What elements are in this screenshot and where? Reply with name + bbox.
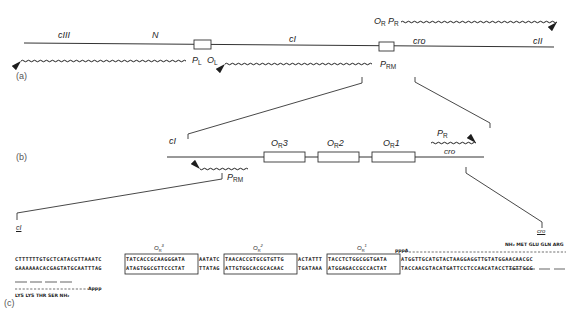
- top-strand-or2: TAACACCGTGCGTGTTG: [225, 257, 284, 262]
- b-promoter-pr: PR: [437, 129, 448, 140]
- operator-right-box: [379, 42, 394, 51]
- bottom-strand-seg-end: TACCAACGTACATGATTCCTCCAACATACCTTGTTGCG: [401, 266, 533, 271]
- prm-transcript: [225, 63, 372, 65]
- gene-cro: cro: [413, 37, 426, 46]
- gene-cii: cII: [533, 37, 543, 46]
- b-or3-label: OR3: [271, 139, 288, 150]
- bottom-strand-spacer-2: TGATAAA: [298, 266, 322, 271]
- c-or3-label: OR3: [154, 244, 164, 253]
- top-strand-seg-1: CTTTTTTGTGCTCATACGTTAAATC: [15, 257, 102, 262]
- bottom-strand-seg-1: GAAAAAACACGAGTATGCAATTTAG: [15, 266, 102, 271]
- b-or2-label: OR2: [327, 139, 344, 150]
- pl-transcript: [21, 60, 186, 62]
- bottom-strand-or2: ATTGTGGCACGCACAAC: [225, 266, 284, 271]
- c-gene-cro: cro: [537, 228, 545, 234]
- c-pppa-label: pppA: [395, 249, 408, 254]
- b-pr-transcript: [431, 142, 476, 144]
- diagram-canvas: [0, 0, 570, 320]
- pr-transcript: [401, 21, 557, 23]
- panel-c-label: (c): [4, 299, 15, 308]
- operator-left-box: [194, 40, 211, 49]
- b-gene-cro: cro: [444, 148, 455, 156]
- b-promoter-prm: PRM: [227, 173, 243, 184]
- bottom-strand-or1: ATGGAGACCGCCACTAT: [328, 266, 387, 271]
- expansion-lines-bc: [17, 167, 542, 228]
- promoter-prm: PRM: [380, 60, 396, 71]
- promoter-pr: PR: [388, 17, 399, 28]
- top-strand-spacer-2: ACTATTT: [298, 257, 322, 262]
- promoter-pl: PL: [192, 56, 202, 67]
- operator-or: OR: [374, 17, 386, 28]
- c-ci-peptide: LYS LYS THR SER NH₂: [15, 294, 69, 299]
- top-strand-or3: TATCACCGCAAGGGATA: [126, 257, 185, 262]
- c-cro-peptide: NH₂ MET GLU GLN ARG: [505, 243, 564, 248]
- c-gene-ci: cI: [16, 224, 21, 231]
- c-appp-label: Appp: [88, 287, 101, 292]
- top-strand-or1: TACCTCTGGCGGTGATA: [328, 257, 387, 262]
- top-strand-spacer-1: AATATC: [199, 257, 220, 262]
- or1-box: [372, 152, 415, 162]
- or2-box: [318, 152, 359, 162]
- bottom-strand-or3: ATAGTGGCGTTCCCTAT: [126, 266, 185, 271]
- b-prm-transcript: [200, 168, 248, 170]
- gene-n: N: [152, 31, 159, 40]
- panel-a-label: (a): [16, 72, 27, 81]
- operator-ol: OL: [207, 56, 218, 67]
- panel-b-dna: [167, 152, 484, 162]
- gene-ciii: cIII: [58, 31, 70, 40]
- gene-ci: cI: [289, 35, 296, 44]
- top-strand-seg-end: ATGGTTGCATGTACTAAGGAGGTTGTATGGAACAACGC: [401, 257, 533, 262]
- b-or1-label: OR1: [383, 139, 400, 150]
- c-or1-label: OR1: [357, 244, 367, 253]
- b-gene-ci: cI: [169, 137, 176, 146]
- panel-b-label: (b): [16, 153, 27, 162]
- c-or2-label: OR2: [253, 244, 263, 253]
- or3-box: [264, 152, 305, 162]
- bottom-strand-spacer-1: TTATAG: [199, 266, 220, 271]
